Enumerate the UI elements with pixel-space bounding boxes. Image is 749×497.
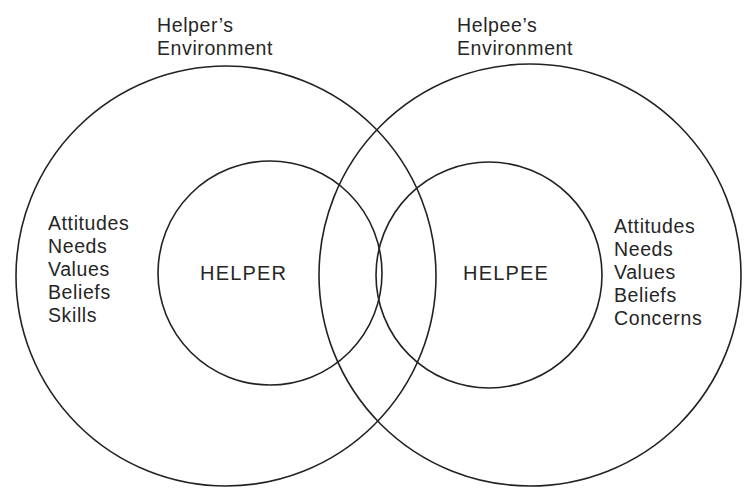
helpee-attribute: Needs <box>614 238 673 260</box>
helper-attribute-list: Attitudes Needs Values Beliefs Skills <box>48 212 129 326</box>
helper-environment-line-2: Environment <box>157 37 273 59</box>
helpee-attribute: Values <box>614 261 676 283</box>
helper-attribute: Values <box>48 258 110 280</box>
helpee-environment-line-1: Helpee’s <box>457 14 537 36</box>
helpee-attribute: Beliefs <box>614 284 677 306</box>
helpee-environment-line-2: Environment <box>457 37 573 59</box>
helper-helpee-diagram: Helper’s Environment Helpee’s Environmen… <box>0 0 749 497</box>
helpee-core-label: HELPEE <box>463 262 549 284</box>
helpee-attribute: Attitudes <box>614 215 695 237</box>
helper-core-label: HELPER <box>200 262 287 284</box>
helper-attribute: Attitudes <box>48 212 129 234</box>
helper-environment-line-1: Helper’s <box>157 14 234 36</box>
helper-attribute: Skills <box>48 304 97 326</box>
helpee-attribute: Concerns <box>614 307 702 329</box>
helpee-environment-title: Helpee’s Environment <box>457 14 573 59</box>
helper-attribute: Needs <box>48 235 107 257</box>
helpee-attribute-list: Attitudes Needs Values Beliefs Concerns <box>614 215 702 329</box>
helper-environment-title: Helper’s Environment <box>157 14 273 59</box>
helper-attribute: Beliefs <box>48 281 111 303</box>
